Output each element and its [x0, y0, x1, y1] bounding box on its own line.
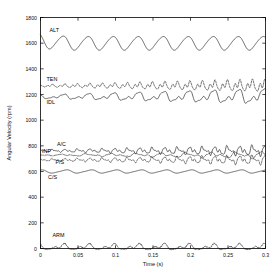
series-label-ac: A/C [57, 141, 66, 147]
x-tick-label: 0.2 [187, 252, 194, 258]
y-tick-label: 0 [34, 246, 37, 252]
x-tick-label: 0.05 [73, 252, 83, 258]
y-tick-label: 400 [28, 194, 37, 200]
series-label-arm: ARM [53, 232, 65, 238]
x-tick-label: 0.15 [148, 252, 158, 258]
x-tick-label: 0.3 [262, 252, 269, 258]
y-tick-label: 200 [28, 220, 37, 226]
y-tick-label: 1400 [25, 66, 37, 72]
x-tick-label: 0.25 [223, 252, 233, 258]
plot-frame [41, 18, 266, 249]
series-label-idl: IDL [47, 99, 55, 105]
series-label-ten: TEN [47, 76, 58, 82]
y-tick-label: 600 [28, 169, 37, 175]
series-label-inp: INP [42, 148, 51, 154]
series-label-alt: ALT [50, 27, 60, 33]
y-axis-label: Angular Velocity (rpm) [6, 105, 12, 160]
figure-canvas: 02004006008001000120014001600180000.050.… [0, 0, 278, 277]
y-tick-label: 1600 [25, 40, 37, 46]
series-label-ps: P/S [56, 159, 65, 165]
angular-velocity-plot: 02004006008001000120014001600180000.050.… [0, 0, 278, 277]
x-tick-label: 0 [39, 252, 42, 258]
x-tick-label: 0.1 [112, 252, 119, 258]
y-tick-label: 1200 [25, 92, 37, 98]
series-label-cs: C/S [48, 174, 57, 180]
y-tick-label: 1800 [25, 15, 37, 21]
y-tick-label: 800 [28, 143, 37, 149]
x-axis-label: Time (s) [143, 261, 163, 267]
y-tick-label: 1000 [25, 117, 37, 123]
